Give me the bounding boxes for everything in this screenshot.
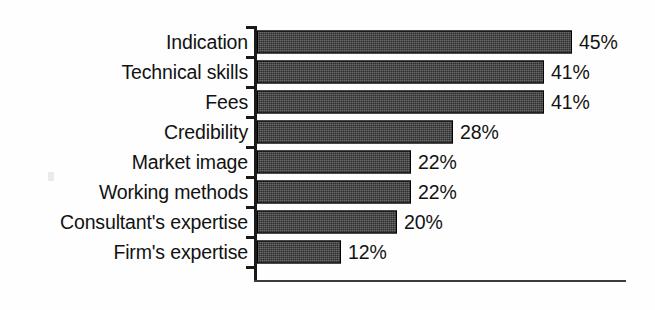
category-label: Indication (166, 31, 248, 54)
category-label: Working methods (99, 181, 248, 204)
bar-row: Working methods22% (0, 177, 655, 207)
value-label: 22% (418, 182, 457, 202)
bar (257, 151, 411, 174)
bar (257, 91, 544, 114)
category-label: Market image (132, 151, 248, 174)
category-label: Fees (205, 91, 248, 114)
bar-chart: Indication45%Technical skills41%Fees41%C… (0, 0, 655, 310)
bar (257, 31, 572, 54)
value-label: 28% (460, 122, 499, 142)
category-label: Consultant's expertise (60, 211, 248, 234)
value-label: 22% (418, 152, 457, 172)
bar-row: Market image22% (0, 147, 655, 177)
bar-row: Fees41% (0, 87, 655, 117)
value-label: 41% (551, 92, 590, 112)
category-label: Firm's expertise (113, 241, 248, 264)
bar-and-value: 28% (257, 121, 499, 144)
bar (257, 211, 397, 234)
bar (257, 181, 411, 204)
value-label: 12% (348, 242, 387, 262)
value-label: 45% (579, 32, 618, 52)
bar-row: Credibility28% (0, 117, 655, 147)
category-label: Credibility (164, 121, 248, 144)
bar-rows-container: Indication45%Technical skills41%Fees41%C… (0, 0, 655, 310)
bar-row: Consultant's expertise20% (0, 207, 655, 237)
bar-and-value: 20% (257, 211, 443, 234)
value-label: 20% (404, 212, 443, 232)
bar-row: Technical skills41% (0, 57, 655, 87)
value-label: 41% (551, 62, 590, 82)
bar-row: Indication45% (0, 27, 655, 57)
bar-and-value: 41% (257, 91, 590, 114)
bar (257, 241, 341, 264)
bar-and-value: 12% (257, 241, 387, 264)
bar-and-value: 41% (257, 61, 590, 84)
bar (257, 121, 453, 144)
bar-and-value: 22% (257, 151, 457, 174)
bar (257, 61, 544, 84)
bar-and-value: 45% (257, 31, 618, 54)
category-label: Technical skills (121, 61, 248, 84)
bar-row: Firm's expertise12% (0, 237, 655, 267)
bar-and-value: 22% (257, 181, 457, 204)
